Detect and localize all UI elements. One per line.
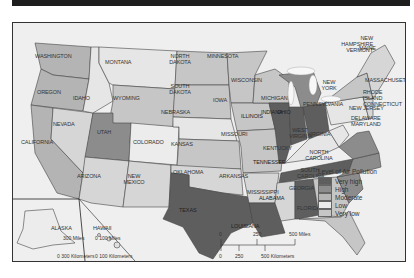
legend-item-very-low: Very low xyxy=(318,209,388,217)
swatch-low xyxy=(318,201,332,209)
label-alabama: ALABAMA xyxy=(259,195,284,201)
label-montana: MONTANA xyxy=(105,59,131,65)
label-texas: TEXAS xyxy=(179,207,197,213)
label-arizona: ARIZONA xyxy=(77,173,101,179)
state-montana xyxy=(99,47,177,89)
scale-mile-0: 0 xyxy=(219,231,222,237)
legend-label: Low xyxy=(335,202,347,209)
scale-mile-500: 500 Miles xyxy=(289,231,310,237)
scale-mile-250: 250 xyxy=(253,231,261,237)
label-north-dakota: NORTH DAKOTA xyxy=(167,53,193,65)
map-frame: WASHINGTON OREGON CALIFORNIA NEVADA IDAH… xyxy=(12,22,406,262)
swatch-high xyxy=(318,185,332,193)
legend-label: Moderate xyxy=(335,194,362,201)
label-louisiana: LOUISIANA xyxy=(231,223,259,229)
swatch-moderate xyxy=(318,193,332,201)
label-minnesota: MINNESOTA xyxy=(207,53,238,59)
state-wyoming xyxy=(109,85,175,127)
legend-item-high: High xyxy=(318,185,388,193)
label-wisconsin: WISCONSIN xyxy=(231,77,262,83)
legend-item-very-high: Very high xyxy=(318,177,388,185)
label-illinois: ILLINOIS xyxy=(241,113,263,119)
legend: Level of Air Pollution Very high High Mo… xyxy=(318,168,388,217)
label-tennessee: TENNESSEE xyxy=(253,159,285,165)
scale-km-500: 500 Kilometers xyxy=(261,253,294,259)
label-idaho: IDAHO xyxy=(73,95,90,101)
label-iowa: IOWA xyxy=(213,97,227,103)
legend-label: High xyxy=(335,186,348,193)
label-ohio: OHIO xyxy=(277,109,291,115)
label-kansas: KANSAS xyxy=(171,141,193,147)
label-georgia: GEORGIA xyxy=(289,185,314,191)
legend-item-low: Low xyxy=(318,201,388,209)
label-washington: WASHINGTON xyxy=(35,53,72,59)
label-nebraska: NEBRASKA xyxy=(161,109,190,115)
label-south-dakota: SOUTH DAKOTA xyxy=(167,83,193,95)
label-maine: MAINE xyxy=(359,45,376,51)
label-nevada: NEVADA xyxy=(53,121,75,127)
label-rhode-island-connecticut: RHODE ISLAND CONNECTICUT xyxy=(363,89,403,107)
label-new-york: NEW YORK xyxy=(319,79,339,91)
label-west-virginia: WEST VIRGINIA xyxy=(289,127,311,139)
label-north-carolina: NORTH CAROLINA xyxy=(305,149,333,161)
label-new-mexico: NEW MEXICO xyxy=(123,173,145,185)
label-hawaii: HAWAII xyxy=(93,225,112,231)
scale-km-250: 250 xyxy=(235,253,243,259)
state-arizona xyxy=(79,157,129,207)
scale-km-0: 0 xyxy=(219,253,222,259)
label-delaware-maryland: DELAWARE MARYLAND xyxy=(351,115,391,127)
alaska-scale-km: 0 300 Kilometers xyxy=(57,253,95,259)
label-missouri: MISSOURI xyxy=(221,131,247,137)
scale-bar xyxy=(221,239,295,251)
label-kentucky: KENTUCKY xyxy=(263,145,292,151)
legend-label: Very low xyxy=(335,210,360,217)
label-massachusetts: MASSACHUSETTS xyxy=(365,77,406,83)
alaska-scale-miles: 300 Miles xyxy=(63,235,84,241)
label-florida: FLORIDA xyxy=(297,205,320,211)
state-nebraska xyxy=(173,117,237,141)
label-oklahoma: OKLAHOMA xyxy=(173,169,203,175)
label-arkansas: ARKANSAS xyxy=(219,173,248,179)
legend-title: Level of Air Pollution xyxy=(318,168,388,175)
label-utah: UTAH xyxy=(97,129,111,135)
label-michigan: MICHIGAN xyxy=(261,95,288,101)
hawaii-scale-km: 0 100 Kilometers xyxy=(95,253,133,259)
label-alaska: ALASKA xyxy=(51,225,72,231)
swatch-very-high xyxy=(318,177,332,185)
label-colorado: COLORADO xyxy=(133,139,164,145)
top-banner-bar xyxy=(12,0,410,6)
label-oregon: OREGON xyxy=(37,89,61,95)
label-pennsylvania: PENNSYLVANIA xyxy=(303,101,343,107)
label-wyoming: WYOMING xyxy=(113,95,140,101)
swatch-very-low xyxy=(318,209,332,217)
hawaii-scale-miles: 0 100 Miles xyxy=(95,235,121,241)
legend-item-moderate: Moderate xyxy=(318,193,388,201)
label-california: CALIFORNIA xyxy=(21,139,53,145)
legend-label: Very high xyxy=(335,178,362,185)
